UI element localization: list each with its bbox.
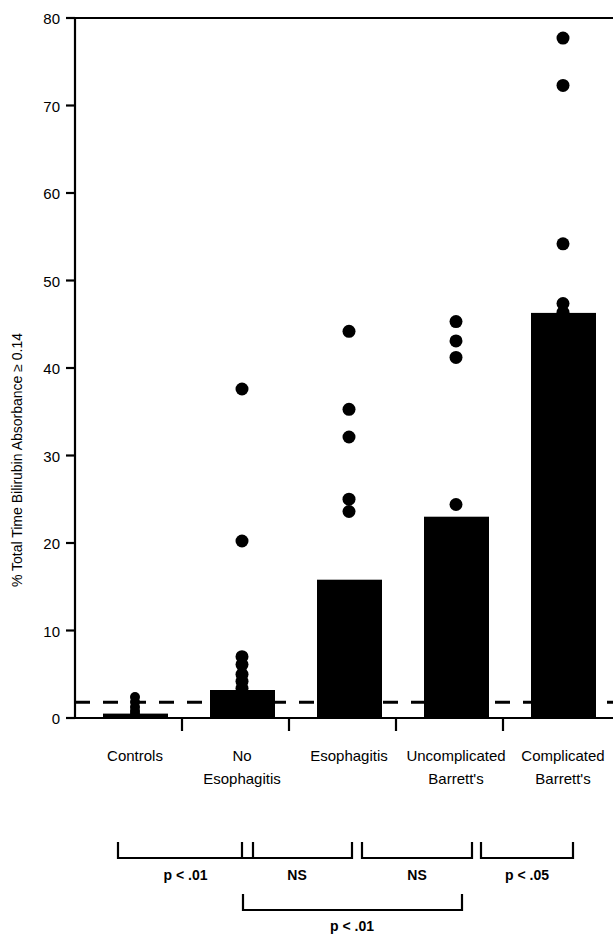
data-point bbox=[130, 709, 140, 719]
significance-bracket-1 bbox=[118, 842, 253, 858]
y-axis-title: % Total Time Bilirubin Absorbance ≥ 0.14 bbox=[9, 333, 25, 587]
y-tick-label-50: 50 bbox=[43, 273, 60, 290]
bar-esophagitis bbox=[317, 580, 382, 718]
data-point bbox=[236, 383, 249, 396]
y-tick-label-10: 10 bbox=[43, 623, 60, 640]
y-tick-label-0: 0 bbox=[52, 710, 60, 727]
category-label-no-esophagitis-line2: Esophagitis bbox=[203, 770, 281, 787]
significance-label-3: NS bbox=[407, 867, 426, 883]
data-point bbox=[343, 403, 356, 416]
data-point bbox=[557, 79, 570, 92]
data-point bbox=[557, 237, 570, 250]
y-tick-label-40: 40 bbox=[43, 360, 60, 377]
y-axis-title-text: % Total Time Bilirubin Absorbance ≥ 0.14 bbox=[9, 333, 25, 587]
y-tick-label-60: 60 bbox=[43, 185, 60, 202]
y-tick-label-80: 80 bbox=[43, 10, 60, 27]
significance-label-5: p < .01 bbox=[330, 918, 374, 934]
data-point bbox=[343, 505, 356, 518]
data-point bbox=[450, 498, 463, 511]
significance-bracket-2 bbox=[242, 842, 352, 858]
data-point bbox=[236, 689, 249, 702]
data-point bbox=[450, 334, 463, 347]
x-axis-ticks bbox=[182, 718, 503, 731]
category-label-esophagitis: Esophagitis bbox=[310, 747, 388, 764]
category-label-uncomplicated-barretts-line2: Barrett's bbox=[428, 770, 483, 787]
bar-chart-figure: % Total Time Bilirubin Absorbance ≥ 0.14… bbox=[0, 0, 615, 934]
category-label-controls: Controls bbox=[107, 747, 163, 764]
y-tick-label-20: 20 bbox=[43, 535, 60, 552]
y-tick-label-70: 70 bbox=[43, 98, 60, 115]
data-point bbox=[343, 325, 356, 338]
y-tick-label-30: 30 bbox=[43, 448, 60, 465]
data-point bbox=[343, 493, 356, 506]
data-point bbox=[557, 306, 570, 319]
data-point bbox=[343, 431, 356, 444]
data-point bbox=[450, 315, 463, 328]
significance-bracket-5 bbox=[243, 894, 462, 910]
data-point bbox=[450, 351, 463, 364]
data-point bbox=[557, 32, 570, 45]
significance-brackets-row1: p < .01 NS NS p < .05 bbox=[118, 842, 573, 883]
significance-brackets-row2: p < .01 bbox=[243, 894, 462, 934]
category-label-no-esophagitis-line1: No bbox=[232, 747, 251, 764]
data-point bbox=[236, 535, 249, 548]
significance-bracket-3 bbox=[362, 842, 472, 858]
category-label-uncomplicated-barretts-line1: Uncomplicated bbox=[406, 747, 505, 764]
significance-bracket-4 bbox=[481, 842, 573, 858]
y-axis-ticks: 0 10 20 30 40 50 60 70 80 bbox=[43, 10, 75, 727]
category-label-complicated-barretts-line2: Barrett's bbox=[535, 770, 590, 787]
significance-label-4: p < .05 bbox=[505, 867, 549, 883]
significance-label-1: p < .01 bbox=[164, 867, 208, 883]
x-axis-category-labels: Controls No Esophagitis Esophagitis Unco… bbox=[107, 747, 605, 787]
significance-label-2: NS bbox=[287, 867, 306, 883]
bar-complicated-barretts bbox=[531, 313, 596, 718]
bar-uncomplicated-barretts bbox=[424, 517, 489, 718]
category-label-complicated-barretts-line1: Complicated bbox=[521, 747, 604, 764]
chart-svg: % Total Time Bilirubin Absorbance ≥ 0.14… bbox=[0, 0, 615, 934]
